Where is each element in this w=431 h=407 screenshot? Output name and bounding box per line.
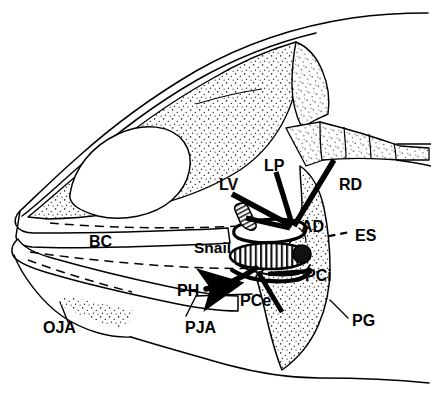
label-ad: AD xyxy=(301,219,324,235)
anatomy-line-drawing xyxy=(0,0,431,407)
pg-pointer-line xyxy=(330,300,348,318)
label-bc: BC xyxy=(89,234,112,250)
label-pce: PCe xyxy=(240,293,271,309)
label-pci: PCi xyxy=(305,268,332,284)
orbit-socket xyxy=(70,127,190,219)
segmented-tube-group xyxy=(320,122,431,166)
label-oja: OJA xyxy=(43,320,76,336)
label-snail: Snail xyxy=(194,240,231,256)
snail-aperture xyxy=(293,245,311,263)
label-lp: LP xyxy=(264,158,284,174)
label-pg: PG xyxy=(352,313,375,329)
label-rd: RD xyxy=(339,177,362,193)
label-pja: PJA xyxy=(185,320,216,336)
anatomy-figure: LP LV RD AD ES BC Snail PCi PCe PH OJA P… xyxy=(0,0,431,407)
label-lv: LV xyxy=(219,177,238,193)
segmented-tube-body xyxy=(320,122,429,160)
opercle-anterior-bone xyxy=(292,42,329,128)
neurocranium-region xyxy=(28,42,300,219)
tube-extension-lower-line xyxy=(396,160,431,166)
label-es: ES xyxy=(355,228,376,244)
label-ph: PH xyxy=(177,283,199,299)
